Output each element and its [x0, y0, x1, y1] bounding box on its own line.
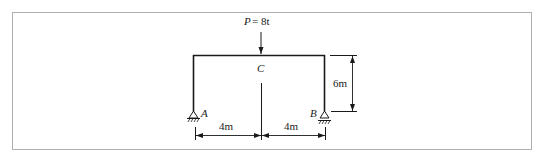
load-value: = 8t — [252, 15, 270, 27]
support-a-pin-icon — [187, 111, 200, 122]
point-b-label: B — [310, 107, 317, 119]
figure-border — [13, 13, 532, 150]
diagram-canvas: P = 8t C A B — [0, 0, 539, 156]
dim-right-span-label: 4m — [284, 120, 299, 132]
load-p: P = 8t — [243, 15, 270, 54]
support-b-roller-icon — [318, 111, 331, 124]
point-c-label: C — [257, 62, 265, 74]
dim-left-span-label: 4m — [219, 120, 234, 132]
load-symbol: P — [243, 15, 251, 27]
point-a-label: A — [200, 107, 208, 119]
dim-height-label: 6m — [333, 77, 348, 89]
